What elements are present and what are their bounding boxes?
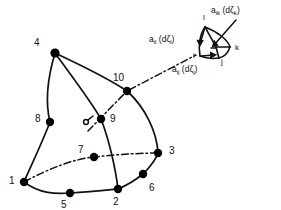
area-label-a-il-close: ) — [172, 34, 175, 44]
inset-fold-center-j — [216, 47, 219, 58]
node-dot-8 — [46, 118, 54, 126]
sigma-marker — [84, 116, 93, 124]
node-dot-1 — [20, 178, 28, 186]
node-label-2: 2 — [113, 197, 119, 207]
element-edges — [24, 53, 158, 193]
inset-vertex-label-k: k — [235, 44, 239, 52]
element-diagram-canvas — [0, 0, 281, 210]
node-label-10: 10 — [113, 73, 124, 83]
inset-vector-a-il-head — [198, 41, 203, 46]
node-label-3: 3 — [169, 146, 175, 156]
inset-detail — [198, 20, 236, 58]
edge-4-10-3 — [55, 53, 158, 153]
area-label-a-ij-close: ) — [195, 64, 198, 74]
area-label-a-ij: aij (dζj) — [172, 65, 197, 75]
node-dot-2 — [114, 185, 122, 193]
area-label-a-ik: aik (dζk) — [211, 6, 240, 16]
sigma-marker-tail — [88, 116, 93, 120]
node-dot-10 — [123, 87, 131, 95]
node-label-6: 6 — [149, 183, 155, 193]
node-label-1: 1 — [9, 176, 15, 186]
node-dot-6 — [139, 170, 147, 178]
inset-vector-a-ij-head — [211, 53, 216, 58]
node-dot-7 — [90, 153, 98, 161]
node-label-7: 7 — [78, 145, 84, 155]
inset-vertex-label-i: i — [193, 52, 195, 60]
node-label-4: 4 — [34, 38, 40, 48]
node-dot-4 — [50, 48, 59, 57]
node-label-8: 8 — [35, 114, 41, 124]
area-label-a-ik-close: ) — [237, 5, 240, 15]
inset-vertex-label-l: l — [203, 14, 205, 22]
area-label-a-ik-paren: (d — [223, 5, 231, 15]
node-dot-5 — [66, 189, 74, 197]
area-label-a-il: ail (dζl) — [149, 35, 174, 45]
node-dot-3 — [154, 149, 162, 157]
inset-vertex-label-j: j — [221, 58, 223, 66]
node-label-9: 9 — [110, 114, 116, 124]
edge-4-9-2 — [55, 53, 118, 189]
node-dot-9 — [97, 115, 105, 123]
node-label-5: 5 — [61, 200, 67, 210]
